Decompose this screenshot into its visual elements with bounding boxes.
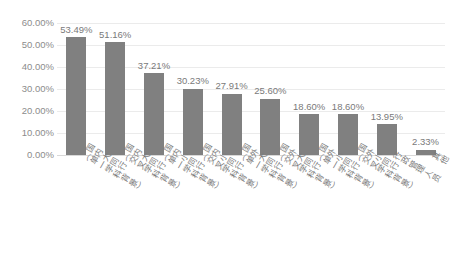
x-axis-tick-label: 其他 [430, 151, 450, 168]
x-axis-label-slot: 国内大同行（单一学科背景） [57, 157, 96, 260]
bar-value-label: 18.60% [293, 102, 325, 112]
bar-chart: 60.00%50.00%40.00%30.00%20.00%10.00%0.00… [0, 0, 462, 260]
bar-value-label: 25.60% [254, 86, 286, 96]
bar-value-label: 30.23% [177, 76, 209, 86]
bar[interactable] [105, 42, 125, 155]
bar-slot: 18.60% [329, 23, 368, 155]
y-axis-tick-label: 50.00% [2, 40, 54, 50]
bar-value-label: 51.16% [99, 30, 131, 40]
bar-slot: 18.60% [290, 23, 329, 155]
bar-value-label: 27.91% [215, 81, 247, 91]
bar-value-label: 18.60% [332, 102, 364, 112]
bar-slot: 51.16% [96, 23, 135, 155]
x-axis-label-slot: 国外大同行（交叉学科背景） [251, 157, 290, 260]
bar-slot: 30.23% [173, 23, 212, 155]
bar-slot: 53.49% [57, 23, 96, 155]
bar[interactable] [144, 73, 164, 155]
x-axis-label-slot: 国外小同行（单一学科背景） [290, 157, 329, 260]
y-axis: 60.00%50.00%40.00%30.00%20.00%10.00%0.00… [0, 23, 54, 155]
x-axis-label-slot: 其他 [406, 157, 445, 260]
x-axis-label-slot: 国外小同行（交叉学科背景） [329, 157, 368, 260]
x-axis-label-slot: 国内小同行（交叉学科背景） [173, 157, 212, 260]
bar-value-label: 13.95% [371, 112, 403, 122]
bar[interactable] [299, 114, 319, 155]
bar-slot: 13.95% [367, 23, 406, 155]
x-axis-label-slot: 国内小同行（单一学科背景） [135, 157, 174, 260]
bar-value-label: 2.33% [412, 137, 439, 147]
bar-slot: 25.60% [251, 23, 290, 155]
y-axis-tick-label: 60.00% [2, 18, 54, 28]
x-axis-label-slot: 国外大同行（单一学科背景） [212, 157, 251, 260]
y-axis-tick-label: 20.00% [2, 106, 54, 116]
bar[interactable] [338, 114, 358, 155]
y-axis-tick-label: 30.00% [2, 84, 54, 94]
x-axis-label-slot: 国内大同行（交叉学科背景） [96, 157, 135, 260]
bar-value-label: 37.21% [138, 61, 170, 71]
x-axis-label-line: 其他 [430, 151, 450, 168]
y-axis-tick-label: 10.00% [2, 128, 54, 138]
bar[interactable] [183, 89, 203, 156]
bar-slot: 37.21% [135, 23, 174, 155]
y-axis-tick-label: 40.00% [2, 62, 54, 72]
bar-slot: 2.33% [406, 23, 445, 155]
bar[interactable] [222, 94, 242, 155]
bar-slot: 27.91% [212, 23, 251, 155]
bar[interactable] [66, 37, 86, 155]
bar-value-label: 53.49% [60, 25, 92, 35]
bar[interactable] [377, 124, 397, 155]
y-axis-tick-label: 0.00% [2, 150, 54, 160]
bar[interactable] [260, 99, 280, 155]
plot-area: 53.49%51.16%37.21%30.23%27.91%25.60%18.6… [57, 23, 445, 155]
x-axis-label-slot: 行政管理人员 [367, 157, 406, 260]
x-axis: 国内大同行（单一学科背景）国内大同行（交叉学科背景）国内小同行（单一学科背景）国… [57, 157, 445, 260]
